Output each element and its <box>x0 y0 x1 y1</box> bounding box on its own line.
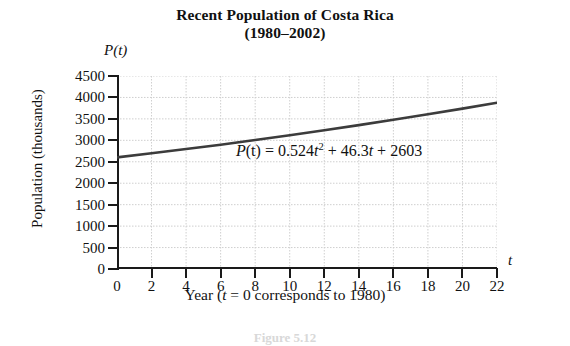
equation-plus-2: + <box>373 142 390 159</box>
x-axis-symbol: t <box>508 252 512 269</box>
y-tick-label: 500 <box>83 239 106 256</box>
x-tick-mark <box>185 268 187 278</box>
plot-area: 050010001500200025003000350040004500 024… <box>117 76 497 269</box>
y-tick-mark <box>108 182 119 184</box>
y-tick-label: 4500 <box>75 68 105 85</box>
x-tick-mark <box>254 268 256 278</box>
equation-coef-a: 0.524 <box>278 142 314 159</box>
x-tick-mark <box>427 268 429 278</box>
y-tick-mark <box>108 139 119 141</box>
x-axis-title: Year (t = 0 corresponds to 1980) <box>0 286 570 304</box>
population-curve <box>117 76 497 269</box>
equation-plus-1: + <box>324 142 341 159</box>
x-axis-title-suffix: = 0 corresponds to 1980) <box>226 286 385 303</box>
y-tick-mark <box>108 118 119 120</box>
x-tick-mark <box>323 268 325 278</box>
x-tick-mark <box>151 268 153 278</box>
x-tick-mark <box>461 268 463 278</box>
y-tick-mark <box>108 96 119 98</box>
y-tick-mark <box>108 75 119 77</box>
y-tick-label: 3500 <box>75 110 105 127</box>
equation-equals: = <box>261 142 278 159</box>
x-axis-title-prefix: Year ( <box>185 286 223 303</box>
y-tick-mark <box>108 204 119 206</box>
y-axis-symbol-arg: (t) <box>113 42 127 58</box>
chart-title-line-2: (1980–2002) <box>0 24 570 42</box>
equation-lhs-fn: P <box>236 142 246 159</box>
y-tick-label: 3000 <box>75 132 105 149</box>
x-tick-mark <box>392 268 394 278</box>
x-tick-mark <box>358 268 360 278</box>
y-axis-title: Population (thousands) <box>29 59 46 259</box>
y-tick-mark <box>108 225 119 227</box>
x-tick-mark <box>220 268 222 278</box>
y-tick-label: 0 <box>98 261 106 278</box>
y-tick-label: 2000 <box>75 175 105 192</box>
equation-constant: 2603 <box>390 142 422 159</box>
equation-coef-b: 46.3 <box>341 142 369 159</box>
x-tick-mark <box>496 268 498 278</box>
y-tick-label: 2500 <box>75 153 105 170</box>
figure-caption: Figure 5.12 <box>0 330 570 346</box>
y-tick-mark <box>108 268 119 270</box>
y-tick-label: 1500 <box>75 196 105 213</box>
y-tick-mark <box>108 161 119 163</box>
y-axis-symbol: P(t) <box>104 42 127 59</box>
equation-lhs-arg: (t) <box>246 142 261 159</box>
equation-annotation: P(t) = 0.524t2 + 46.3t + 2603 <box>236 141 422 160</box>
chart-title-line-1: Recent Population of Costa Rica <box>176 6 394 23</box>
x-tick-mark <box>289 268 291 278</box>
y-tick-label: 4000 <box>75 89 105 106</box>
y-tick-label: 1000 <box>75 218 105 235</box>
chart-title: Recent Population of Costa Rica (1980–20… <box>0 6 570 42</box>
y-axis-symbol-fn: P <box>104 42 113 58</box>
y-tick-mark <box>108 247 119 249</box>
